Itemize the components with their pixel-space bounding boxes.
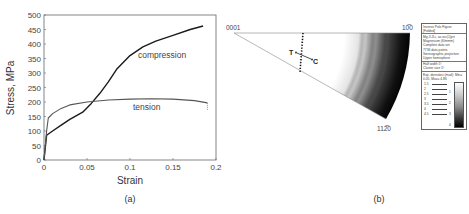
stress-strain-chart: 050100150200250300350400450500 00.050.10… — [5, 11, 222, 204]
level-value: 4 — [424, 107, 432, 111]
series-layer — [44, 26, 207, 160]
legend-params: Half width 5°Cluster size 5° — [422, 62, 466, 72]
level-line — [432, 94, 447, 95]
level-value: 2 — [424, 87, 432, 91]
y-tick-label: 150 — [28, 113, 42, 122]
x-tick-label: 0 — [42, 163, 47, 172]
x-tick-label: 0.2 — [210, 163, 222, 172]
tension-curve — [44, 99, 207, 160]
y-tick-label: 50 — [32, 142, 41, 151]
x-tick-label: 0.1 — [124, 163, 136, 172]
level-value: 2.5 — [424, 92, 432, 96]
panel-label-b: (b) — [374, 194, 385, 204]
y-tick-label: 350 — [28, 55, 42, 64]
scale-bar — [454, 82, 464, 128]
legend-line: Cluster size 5° — [423, 66, 465, 70]
t-arrow-head — [295, 52, 297, 54]
label-c: C — [313, 58, 318, 65]
y-axis-label: Stress, MPa — [5, 60, 16, 115]
compression-curve — [44, 26, 203, 160]
legend-header: Inverse Pole Figure[Folded] — [422, 24, 466, 34]
panel-label-a: (a) — [125, 194, 136, 204]
y-tick-label: 450 — [28, 26, 42, 35]
y-tick-label: 100 — [28, 127, 42, 136]
x-tick-label: 0.15 — [165, 163, 181, 172]
legend-level-row: 4.5 — [424, 112, 449, 117]
level-value: 3.5 — [424, 102, 432, 106]
plot-frame — [44, 15, 216, 160]
levels-list: 1.522.533.544.5 — [424, 82, 449, 128]
figure-canvas: 050100150200250300350400450500 00.050.10… — [0, 0, 469, 214]
label-t: T — [289, 49, 294, 56]
y-tick-label: 250 — [28, 84, 42, 93]
level-value: 4.5 — [424, 112, 432, 116]
level-line — [432, 114, 447, 115]
legend-density: Exp. densities (mud): Min= 0.05, Max= 4.… — [422, 72, 466, 129]
scale-tick: 2 — [449, 101, 451, 105]
x-tick-label: 0.05 — [79, 163, 95, 172]
y-tick-label: 400 — [28, 40, 42, 49]
level-line — [432, 84, 447, 85]
legend-line: [Folded] — [423, 29, 465, 33]
y-tick-label: 200 — [28, 98, 42, 107]
ipf-sector-bands — [234, 33, 410, 119]
label-0001: 0001 — [226, 24, 241, 31]
ipf-legend: Inverse Pole Figure[Folded] Mg-3.2Li, as… — [421, 23, 467, 130]
label-10-10: 10̅0 — [402, 24, 413, 31]
y-tick-label: 500 — [28, 11, 42, 20]
inverse-pole-figure: T C 0001 10̅0 112̅0 (b) — [226, 24, 413, 204]
level-line — [432, 89, 447, 90]
scale-tick: 4 — [449, 123, 451, 127]
x-axis-label: Strain — [117, 175, 143, 186]
level-value: 3 — [424, 97, 432, 101]
y-axis-ticks: 050100150200250300350400450500 — [28, 11, 46, 165]
label-11-20: 112̅0 — [377, 125, 391, 132]
legend-info: Mg-3.2Li, as-rec(1)prtMagnesium (6/mmm)C… — [422, 34, 466, 61]
level-value: 1.5 — [424, 82, 432, 86]
legend-levels: 1.522.533.544.5 1234 — [423, 81, 465, 129]
annotation-compression: compression — [138, 50, 186, 60]
legend-line: Upper hemisphere — [423, 56, 465, 60]
level-line — [432, 99, 447, 100]
y-tick-label: 300 — [28, 69, 42, 78]
level-line — [432, 109, 447, 110]
legend-density-text: Exp. densities (mud): Min= 0.05, Max= 4.… — [423, 73, 465, 81]
figure: 050100150200250300350400450500 00.050.10… — [0, 0, 469, 214]
level-line — [432, 104, 447, 105]
scale-tick: 1 — [449, 90, 451, 94]
scale-tick: 3 — [449, 112, 451, 116]
scale-ticks: 1234 — [449, 82, 454, 128]
annotation-tension: tension — [133, 102, 161, 112]
